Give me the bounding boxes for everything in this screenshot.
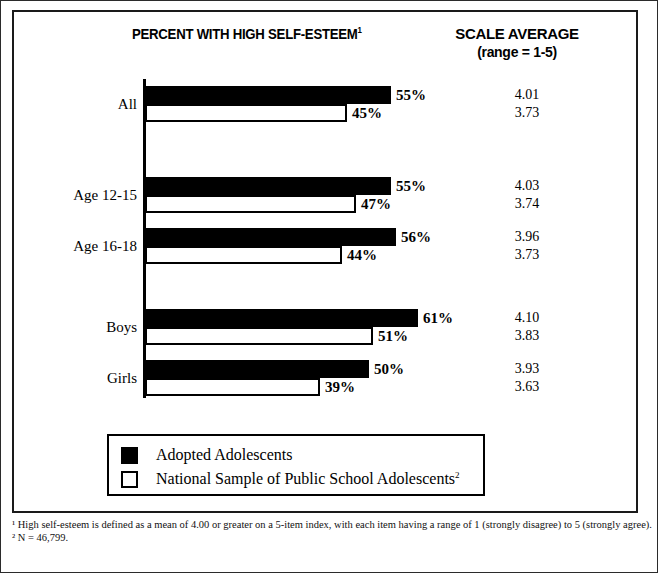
scale-average-girls-national: 3.63 [482, 378, 572, 396]
scale-average-age-12-15-national: 3.74 [482, 195, 572, 213]
category-label-all: All [17, 95, 137, 113]
bar-value-girls-adopted: 50% [374, 360, 404, 378]
legend-label-adopted: Adopted Adolescents [156, 446, 292, 464]
scale-average-age-12-15-adopted: 4.03 [482, 177, 572, 195]
bar-boys-national [145, 327, 373, 345]
bar-value-all-national: 45% [352, 104, 382, 122]
legend-item-national: National Sample of Public School Adolesc… [121, 468, 460, 490]
bar-value-age-12-15-national: 47% [361, 195, 391, 213]
category-label-boys: Boys [17, 318, 137, 336]
category-label-girls: Girls [17, 369, 137, 387]
chart-legend: Adopted Adolescents National Sample of P… [107, 434, 485, 496]
legend-footnote-marker: 2 [455, 470, 460, 480]
footnotes: ¹ High self-esteem is defined as a mean … [12, 518, 652, 544]
bar-value-boys-adopted: 61% [423, 309, 453, 327]
bar-age-16-18-adopted [145, 228, 396, 246]
category-label-age-12-15: Age 12-15 [17, 186, 137, 204]
chart-frame: PERCENT WITH HIGH SELF-ESTEEM1 SCALE AVE… [12, 10, 638, 513]
scale-average-age-16-18-national: 3.73 [482, 246, 572, 264]
bar-girls-national [145, 378, 320, 396]
category-label-age-16-18: Age 16-18 [17, 237, 137, 255]
bar-age-12-15-adopted [145, 177, 391, 195]
bar-value-boys-national: 51% [378, 327, 408, 345]
scale-average-girls-adopted: 3.93 [482, 360, 572, 378]
legend-item-adopted: Adopted Adolescents [121, 444, 292, 466]
scale-average-boys-national: 3.83 [482, 327, 572, 345]
bar-value-age-16-18-adopted: 56% [401, 228, 431, 246]
bar-age-16-18-national [145, 246, 342, 264]
legend-swatch-filled-icon [121, 447, 138, 464]
bar-value-girls-national: 39% [325, 378, 355, 396]
scale-average-boys-adopted: 4.10 [482, 309, 572, 327]
bar-value-age-12-15-adopted: 55% [396, 177, 426, 195]
bar-boys-adopted [145, 309, 418, 327]
footnote-2: ² N = 46,799. [12, 531, 652, 544]
bar-value-all-adopted: 55% [396, 86, 426, 104]
figure-container: PERCENT WITH HIGH SELF-ESTEEM1 SCALE AVE… [0, 0, 658, 573]
bar-all-adopted [145, 86, 391, 104]
footnote-1: ¹ High self-esteem is defined as a mean … [12, 518, 652, 531]
bar-all-national [145, 104, 347, 122]
bar-value-age-16-18-national: 44% [347, 246, 377, 264]
bar-girls-adopted [145, 360, 369, 378]
scale-average-all-national: 3.73 [482, 104, 572, 122]
scale-average-all-adopted: 4.01 [482, 86, 572, 104]
bar-age-12-15-national [145, 195, 356, 213]
legend-label-national-text: National Sample of Public School Adolesc… [156, 470, 455, 487]
legend-label-national: National Sample of Public School Adolesc… [156, 470, 460, 488]
legend-swatch-hollow-icon [121, 471, 138, 488]
scale-average-age-16-18-adopted: 3.96 [482, 228, 572, 246]
